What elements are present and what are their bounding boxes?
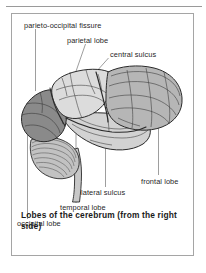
- label-central-sulcus: central sulcus: [110, 50, 156, 59]
- label-parietal-lobe: parietal lobe: [67, 36, 108, 45]
- label-parieto-occipital-fissure: parieto-occipital fissure: [24, 21, 101, 30]
- label-lateral-sulcus: lateral sulcus: [81, 188, 125, 197]
- label-frontal-lobe: frontal lobe: [141, 177, 178, 186]
- frontal-lobe-shape: [106, 66, 182, 130]
- parietal-lobe-shape: [52, 69, 113, 118]
- page-top-rule: [6, 6, 202, 7]
- figure-caption: Lobes of the cerebrum (from the right si…: [21, 210, 187, 232]
- figure-inner: parieto-occipital fissure parietal lobe …: [12, 14, 193, 255]
- cerebellum-shape: [30, 137, 79, 179]
- caption-line-1: Lobes of the cerebrum (from the: [21, 210, 155, 220]
- figure-frame: parieto-occipital fissure parietal lobe …: [11, 13, 194, 256]
